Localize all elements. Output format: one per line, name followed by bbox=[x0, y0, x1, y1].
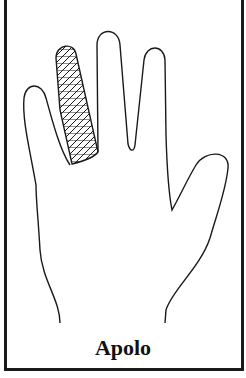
hand-illustration bbox=[0, 0, 246, 378]
figure-caption: Apolo bbox=[0, 335, 246, 361]
hand-outline bbox=[24, 32, 228, 324]
ring-finger-hatched bbox=[56, 46, 98, 164]
